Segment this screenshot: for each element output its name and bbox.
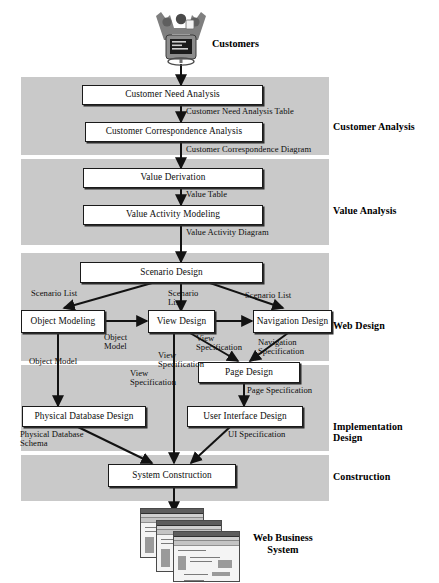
process-box-value-activity-modeling[interactable]: Value Activity Modeling — [83, 205, 263, 225]
process-label: Value Activity Modeling — [126, 210, 220, 220]
process-box-physical-database-design[interactable]: Physical Database Design — [22, 406, 146, 427]
phase-label-web-design: Web Design — [333, 320, 385, 331]
process-label: System Construction — [132, 471, 212, 481]
artifact-label-view-specification-right: View Specification — [196, 334, 242, 353]
process-label: View Design — [157, 317, 206, 327]
process-label: Page Design — [225, 368, 273, 378]
process-flow-diagram: Customers Customer Need Analysis Custome… — [0, 0, 439, 583]
phase-label-customer-analysis: Customer Analysis — [333, 121, 415, 132]
artifact-label-physical-database-schema: Physical Database Schema — [20, 430, 84, 449]
process-label: Value Derivation — [141, 173, 206, 183]
artifact-label-customer-correspondence-diagram: Customer Correspondence Diagram — [186, 145, 311, 154]
process-label: Object Modeling — [31, 317, 96, 327]
process-label: Physical Database Design — [35, 412, 134, 422]
stacked-windows-clipart-icon — [140, 508, 238, 580]
process-label: Scenario Design — [140, 268, 203, 278]
process-box-page-design[interactable]: Page Design — [198, 362, 300, 383]
process-label: Customer Need Analysis — [125, 90, 220, 100]
process-box-object-modeling[interactable]: Object Modeling — [21, 310, 105, 333]
phase-label-value-analysis: Value Analysis — [333, 205, 397, 216]
process-label: User Interface Design — [203, 412, 287, 422]
process-box-navigation-design[interactable]: Navigation Design — [253, 310, 332, 333]
artifact-label-view-specification-diag: View Specification — [158, 351, 204, 370]
artifact-label-navigation-specification: Navigation Specification — [258, 338, 304, 357]
window-mock-front — [173, 531, 240, 582]
artifact-label-ui-specification: UI Specification — [228, 430, 285, 439]
artifact-label-value-table: Value Table — [186, 190, 227, 199]
artifact-label-scenario-list-right: Scenario List — [245, 291, 291, 300]
artifact-label-object-model-right: Object Model — [104, 333, 127, 352]
process-label: Navigation Design — [257, 317, 329, 327]
process-box-system-construction[interactable]: System Construction — [108, 464, 236, 487]
artifact-label-object-model-down: Object Model — [29, 357, 77, 366]
artifact-label-scenario-list-center: Scenario List — [168, 289, 198, 308]
process-box-user-interface-design[interactable]: User Interface Design — [187, 406, 303, 427]
artifact-label-page-specification: Page Specification — [247, 386, 312, 395]
artifact-label-scenario-list-left: Scenario List — [31, 289, 77, 298]
process-box-customer-correspondence-analysis[interactable]: Customer Correspondence Analysis — [85, 122, 263, 142]
process-box-view-design[interactable]: View Design — [148, 310, 215, 333]
process-label: Customer Correspondence Analysis — [106, 127, 242, 137]
phase-label-construction: Construction — [333, 471, 390, 482]
artifact-label-customer-need-analysis-table: Customer Need Analysis Table — [186, 107, 294, 116]
customers-clipart-icon — [150, 6, 212, 68]
process-box-value-derivation[interactable]: Value Derivation — [83, 168, 263, 188]
process-box-customer-need-analysis[interactable]: Customer Need Analysis — [82, 85, 263, 105]
customers-label: Customers — [212, 38, 259, 50]
artifact-label-view-specification-down: View Specification — [130, 369, 176, 388]
phase-label-implementation-design: Implementation Design — [333, 421, 403, 443]
web-business-system-label: Web Business System — [253, 532, 313, 555]
artifact-label-value-activity-diagram: Value Activity Diagram — [186, 228, 269, 237]
process-box-scenario-design[interactable]: Scenario Design — [80, 262, 263, 283]
